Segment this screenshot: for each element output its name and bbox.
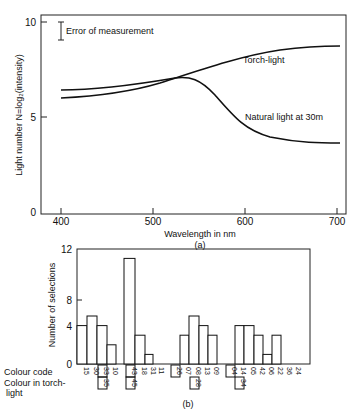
colour-code-labels: 15 30 33 10 43 18 31 11 26 07 08 13 09 0… <box>83 365 302 377</box>
y-axis-label-a: Light number N=log₂(intensity) <box>14 54 24 175</box>
svg-text:22: 22 <box>277 367 284 375</box>
svg-text:31: 31 <box>150 367 157 375</box>
natural-light-label: Natural light at 30m <box>245 112 323 122</box>
svg-text:600: 600 <box>237 216 254 227</box>
svg-text:05: 05 <box>250 367 257 375</box>
svg-text:10: 10 <box>25 17 37 28</box>
svg-text:06: 06 <box>268 367 275 375</box>
svg-text:42: 42 <box>259 367 266 375</box>
svg-text:15: 15 <box>83 367 90 375</box>
panel-label-b: (b) <box>183 399 194 409</box>
y-axis-a: 10 5 0 <box>25 17 47 218</box>
natural-light-line <box>61 77 340 143</box>
bars <box>77 258 281 364</box>
svg-text:18: 18 <box>141 367 148 375</box>
svg-text:28: 28 <box>195 379 202 387</box>
row-label-torch: Colour in torch- <box>4 378 66 388</box>
x-axis-a: 400 500 600 700 <box>53 208 346 227</box>
svg-text:8: 8 <box>66 295 72 306</box>
row-label-torch-cont: light <box>6 388 23 398</box>
chart-a: 10 5 0 Light number N=log₂(intensity) 40… <box>14 15 346 250</box>
svg-text:09: 09 <box>213 367 220 375</box>
svg-text:10: 10 <box>112 367 119 375</box>
svg-text:11: 11 <box>158 367 165 374</box>
svg-text:45: 45 <box>131 379 138 387</box>
svg-text:07: 07 <box>185 367 192 375</box>
svg-text:14: 14 <box>240 367 247 375</box>
svg-text:5: 5 <box>30 112 36 123</box>
y-axis-label-b: Number of selections <box>47 262 57 347</box>
x-axis-label-a: Wavelength in nm <box>164 229 236 239</box>
svg-text:400: 400 <box>53 216 70 227</box>
figure: 10 5 0 Light number N=log₂(intensity) 40… <box>0 0 359 414</box>
svg-text:0: 0 <box>30 207 36 218</box>
svg-text:08: 08 <box>195 367 202 375</box>
svg-text:34: 34 <box>240 379 247 387</box>
svg-text:Error of measurement: Error of measurement <box>66 26 154 36</box>
svg-text:0: 0 <box>66 359 72 370</box>
svg-text:35: 35 <box>103 379 110 387</box>
chart-b: 12 8 4 0 Number of selections <box>4 244 310 409</box>
row-label-colour-code: Colour code <box>4 367 53 377</box>
svg-text:500: 500 <box>145 216 162 227</box>
svg-text:24: 24 <box>295 367 302 375</box>
svg-text:4: 4 <box>66 321 72 332</box>
error-bar-annotation: Error of measurement <box>58 22 154 40</box>
svg-text:700: 700 <box>329 216 346 227</box>
torch-light-label: Torch-light <box>243 55 285 65</box>
svg-text:30: 30 <box>93 367 100 375</box>
svg-text:36: 36 <box>286 367 293 375</box>
svg-text:12: 12 <box>61 244 73 255</box>
torch-light-line <box>61 46 340 98</box>
svg-text:13: 13 <box>204 367 211 375</box>
torch-colour-labels: 35 45 28 34 <box>98 377 247 389</box>
